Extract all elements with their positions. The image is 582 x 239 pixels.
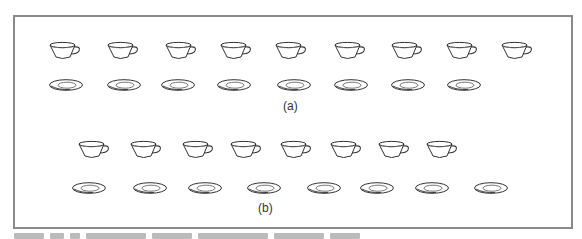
teacup-icon: [129, 140, 163, 164]
saucer-icon: [48, 78, 84, 96]
teacup-icon: [106, 41, 140, 65]
teacup-icon: [48, 41, 82, 65]
teacup-icon: [279, 140, 313, 164]
saucer-icon: [216, 78, 252, 96]
saucer-icon: [359, 181, 395, 199]
teacup-icon: [377, 140, 411, 164]
saucer-icon: [160, 78, 196, 96]
teacup-icon: [425, 140, 459, 164]
saucer-icon: [446, 78, 482, 96]
teacup-icon: [274, 41, 308, 65]
saucer-icon: [414, 181, 450, 199]
saucer-icon: [306, 181, 342, 199]
teacup-icon: [229, 140, 263, 164]
saucer-icon: [246, 181, 282, 199]
panel-a-label: (a): [283, 99, 298, 113]
panel-b-label: (b): [258, 201, 273, 215]
teacup-icon: [500, 41, 534, 65]
saucer-icon: [276, 78, 312, 96]
teacup-icon: [219, 41, 253, 65]
saucer-icon: [132, 181, 168, 199]
saucer-icon: [71, 181, 107, 199]
saucer-icon: [473, 181, 509, 199]
saucer-icon: [333, 78, 369, 96]
saucer-icon: [187, 181, 223, 199]
teacup-icon: [390, 41, 424, 65]
teacup-icon: [77, 140, 111, 164]
saucer-icon: [390, 78, 426, 96]
saucer-icon: [106, 78, 142, 96]
teacup-icon: [329, 140, 363, 164]
teacup-icon: [333, 41, 367, 65]
teacup-icon: [181, 140, 215, 164]
teacup-icon: [445, 41, 479, 65]
cropped-caption: [14, 233, 444, 239]
teacup-icon: [164, 41, 198, 65]
